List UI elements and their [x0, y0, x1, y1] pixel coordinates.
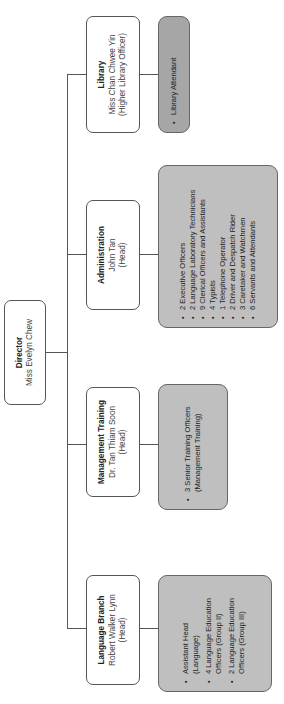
drop-language: [67, 628, 86, 629]
staff-list: Assistant Head (Language) 4 Language Edu…: [181, 584, 250, 683]
staff-box-language: Assistant Head (Language) 4 Language Edu…: [158, 575, 272, 692]
branch-box-management-training: Management Training Dr. Tan Thiam Soon (…: [86, 387, 140, 497]
staff-item: 1 Telephone Operator: [218, 174, 228, 319]
staff-item: 2 Language Laboratory Technicians: [188, 174, 198, 319]
staff-item: 4 Language Education Officers (Group II): [204, 584, 224, 683]
branch-head-name: John Tan: [108, 238, 119, 271]
branch-title: Administration: [97, 226, 108, 284]
director-name: Miss Evelyn Chew: [25, 319, 36, 386]
staff-box-administration: 2 Executive Officers 2 Language Laborato…: [158, 165, 278, 328]
staff-connector-management: [140, 444, 158, 445]
staff-item: 6 Servants and Attendants: [248, 174, 258, 319]
branch-title: Language Branch: [97, 595, 108, 664]
staff-list: Library Attendant: [169, 25, 179, 124]
branch-title: Library: [97, 61, 108, 89]
staff-item: 2 Driver and Despatch Rider: [228, 174, 238, 319]
branch-head-name: Dr. Tan Thiam Soon: [108, 406, 119, 478]
branch-head-role: (Higher Library Officer): [118, 33, 129, 116]
branch-box-administration: Administration John Tan (Head): [86, 200, 140, 310]
staff-item: 2 Executive Officers: [178, 174, 188, 319]
staff-item: 4 Typists: [208, 174, 218, 319]
staff-list: 2 Executive Officers 2 Language Laborato…: [178, 174, 258, 319]
drop-management: [67, 444, 86, 445]
staff-box-management-training: 3 Senior Training Officers (Management T…: [158, 384, 228, 510]
staff-item: Library Attendant: [169, 25, 179, 124]
director-title: Director: [15, 337, 26, 368]
drop-library: [67, 74, 86, 75]
staff-connector-language: [140, 628, 158, 629]
director-connector: [46, 352, 67, 353]
staff-connector-library: [140, 74, 158, 75]
branch-head-role: (Head): [118, 242, 129, 267]
branch-box-language: Language Branch Robert Walker Lynn (Head…: [86, 575, 140, 685]
staff-connector-administration: [140, 254, 158, 255]
branch-box-library: Library Miss Chan Chwee Yin (Higher Libr…: [86, 16, 140, 133]
branch-head-role: (Head): [118, 429, 129, 454]
org-chart: Director Miss Evelyn Chew Language Branc…: [0, 0, 284, 704]
staff-item: 3 Caretaker and Watchmen: [238, 174, 248, 319]
staff-item: 3 Senior Training Officers (Management T…: [183, 393, 203, 501]
staff-item: 9 Clerical Officers and Assistants: [198, 174, 208, 319]
branch-title: Management Training: [97, 400, 108, 484]
staff-item: Assistant Head (Language): [181, 584, 201, 683]
staff-box-library: Library Attendant: [158, 16, 190, 133]
staff-list: 3 Senior Training Officers (Management T…: [183, 393, 203, 501]
branch-head-name: Miss Chan Chwee Yin: [108, 34, 119, 114]
branch-head-name: Robert Walker Lynn: [108, 594, 119, 666]
branch-head-role: (Head): [118, 617, 129, 642]
trunk-line: [67, 75, 68, 629]
drop-administration: [67, 254, 86, 255]
staff-item: 2 Language Education Officers (Group III…: [227, 584, 247, 683]
director-box: Director Miss Evelyn Chew: [4, 300, 46, 405]
